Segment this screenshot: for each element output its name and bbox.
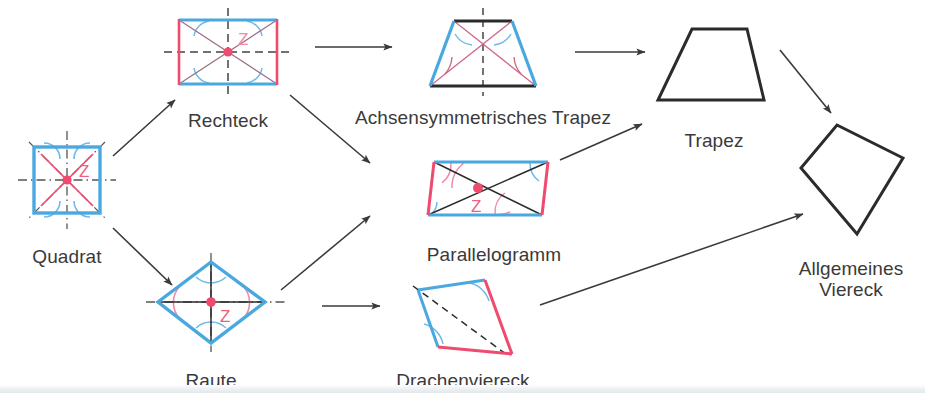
shape-quadrat: Z [18,131,116,229]
quadrilateral-hierarchy-diagram: Z Z [0,0,925,393]
label-parallelogramm: Parallelogramm [394,244,594,265]
angle-arc [194,21,209,36]
center-label-z: Z [220,307,230,326]
angle-arc [194,68,209,83]
label-allgemeines-viereck: Allgemeines Viereck [776,258,925,300]
angle-arc [530,163,539,181]
center-label-z: Z [471,197,481,216]
center-point [62,175,71,184]
shape-allgemeines-viereck [801,125,903,234]
trapezoid-outline [658,29,764,100]
side-left [418,290,438,347]
label-quadrat: Quadrat [0,246,134,267]
shape-rechteck: Z [164,8,293,95]
shape-parallelogramm: Z [428,162,548,216]
angle-arc [247,68,262,83]
diagonal [428,162,548,215]
arrow-trapez-to-allgemeines-viereck [780,50,831,113]
center-label-z: Z [79,162,89,181]
arrow-parallelogramm-to-trapez [560,124,642,160]
quadrilateral-outline [801,125,903,234]
arrow-rechteck-to-parallelogramm [290,95,370,163]
label-trapez: Trapez [649,130,779,151]
side-left [428,162,434,215]
side-right [542,162,548,215]
shape-drachenviereck [413,280,512,357]
angle-arc [247,21,262,36]
label-achsensymmetrisches-trapez: Achsensymmetrisches Trapez [333,107,633,128]
center-label-z: Z [238,30,248,49]
center-point [473,183,483,193]
label-rechteck: Rechteck [163,110,293,131]
side-right [485,280,512,354]
shape-trapez [658,29,764,100]
page-bottom-edge [0,385,925,393]
shape-raute: Z [146,253,288,352]
angle-arc [455,34,472,45]
angle-arc [494,34,511,45]
arrow-raute-to-parallelogramm [281,216,370,290]
diagram-canvas: Z Z [0,0,925,393]
center-point [206,297,216,307]
center-point [223,47,232,56]
shape-achsensymmetrisches-trapez [430,8,536,96]
